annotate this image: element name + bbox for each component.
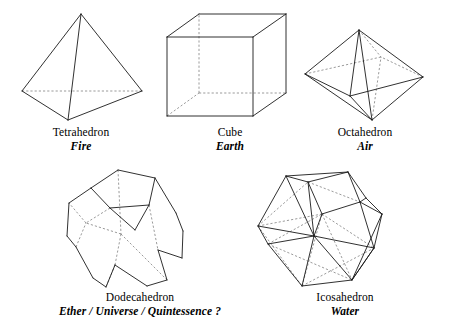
dodecahedron-visible-edge	[149, 178, 155, 205]
icosahedron-caption: IcosahedronWater	[283, 291, 407, 318]
tetrahedron-visible-edge	[68, 91, 142, 120]
dodecahedron-caption: DodecahedronEther / Universe / Quintesse…	[44, 291, 236, 318]
dodecahedron-hidden-edge	[86, 223, 121, 234]
icosahedron-visible-edge	[360, 198, 366, 202]
dodecahedron-visible-edge	[110, 208, 135, 230]
dodecahedron-visible-edge	[67, 203, 69, 236]
icosahedron-visible-edge	[314, 214, 322, 236]
icosahedron-visible-edge	[258, 226, 268, 244]
cube-visible-edge	[253, 93, 286, 116]
octahedron-visible-edge	[305, 74, 372, 120]
icosahedron-wireframe	[256, 170, 390, 292]
platonic-solids-figure: TetrahedronFireCubeEarthOctahedronAirDod…	[0, 0, 453, 331]
cube-wireframe	[163, 11, 291, 121]
icosahedron-element: Water	[283, 305, 407, 319]
tetrahedron-visible-edge	[68, 14, 81, 120]
octahedron-wireframe	[303, 28, 425, 122]
dodecahedron-visible-edge	[158, 250, 182, 258]
dodecahedron-hidden-edge	[86, 208, 110, 223]
dodecahedron-visible-edge	[115, 265, 147, 286]
icosahedron-visible-edge	[302, 280, 352, 286]
icosahedron-visible-edge	[374, 214, 382, 248]
dodecahedron-hidden-edge	[76, 223, 86, 247]
cube-element: Earth	[186, 140, 274, 154]
cube-name: Cube	[186, 126, 274, 140]
octahedron-visible-edge	[305, 30, 359, 74]
dodecahedron-name: Dodecahedron	[44, 291, 236, 305]
icosahedron-visible-edge	[352, 248, 374, 280]
dodecahedron-visible-edge	[106, 265, 115, 287]
dodecahedron-hidden-edge	[69, 203, 86, 223]
dodecahedron-visible-edge	[91, 170, 118, 188]
octahedron-hidden-edge	[381, 57, 423, 77]
octahedron-visible-edge	[359, 30, 423, 77]
dodecahedron-visible-edge	[158, 250, 167, 280]
icosahedron-visible-edge	[366, 198, 382, 214]
icosahedron-hidden-edge	[302, 248, 374, 286]
cube-hidden-edge	[167, 93, 199, 116]
dodecahedron-element: Ether / Universe / Quintessence ?	[44, 305, 236, 319]
dodecahedron-visible-edge	[135, 205, 149, 230]
octahedron-name: Octahedron	[311, 126, 419, 140]
icosahedron-name: Icosahedron	[283, 291, 407, 305]
dodecahedron-hidden-edge	[118, 170, 121, 234]
icosahedron-visible-edge	[302, 236, 314, 286]
dodecahedron-hidden-edge	[115, 234, 121, 265]
icosahedron-visible-edge	[308, 182, 314, 236]
dodecahedron-visible-edge	[91, 188, 110, 208]
icosahedron-visible-edge	[258, 176, 286, 226]
octahedron-element: Air	[311, 140, 419, 154]
icosahedron-visible-edge	[268, 236, 314, 244]
icosahedron-hidden-edge	[258, 182, 308, 226]
icosahedron-visible-edge	[286, 176, 308, 182]
dodecahedron-visible-edge	[176, 213, 183, 231]
dodecahedron-visible-edge	[155, 178, 176, 213]
cube-visible-edge	[167, 14, 199, 37]
octahedron-hidden-edge	[305, 57, 381, 74]
tetrahedron-element: Fire	[22, 140, 140, 154]
dodecahedron-visible-edge	[118, 170, 155, 178]
octahedron-visible-edge	[350, 30, 359, 96]
dodecahedron-visible-edge	[69, 188, 91, 203]
dodecahedron-visible-edge	[110, 205, 149, 208]
octahedron-caption: OctahedronAir	[311, 126, 419, 153]
icosahedron-visible-edge	[258, 226, 314, 236]
icosahedron-visible-edge	[268, 244, 302, 286]
octahedron-visible-edge	[305, 74, 350, 96]
dodecahedron-visible-edge	[67, 236, 76, 247]
tetrahedron-visible-edge	[22, 14, 81, 91]
dodecahedron-wireframe	[63, 168, 187, 290]
cube-caption: CubeEarth	[186, 126, 274, 153]
dodecahedron-visible-edge	[76, 247, 93, 278]
tetrahedron-visible-edge	[81, 14, 142, 91]
icosahedron-hidden-edge	[268, 244, 352, 280]
icosahedron-visible-edge	[322, 202, 360, 214]
dodecahedron-visible-edge	[147, 280, 167, 286]
tetrahedron-caption: TetrahedronFire	[22, 126, 140, 153]
tetrahedron-visible-edge	[22, 91, 68, 120]
dodecahedron-hidden-edge	[149, 205, 158, 250]
dodecahedron-visible-edge	[182, 231, 183, 258]
tetrahedron-wireframe	[18, 10, 148, 122]
cube-visible-edge	[253, 14, 286, 37]
tetrahedron-name: Tetrahedron	[22, 126, 140, 140]
dodecahedron-visible-edge	[93, 278, 106, 287]
